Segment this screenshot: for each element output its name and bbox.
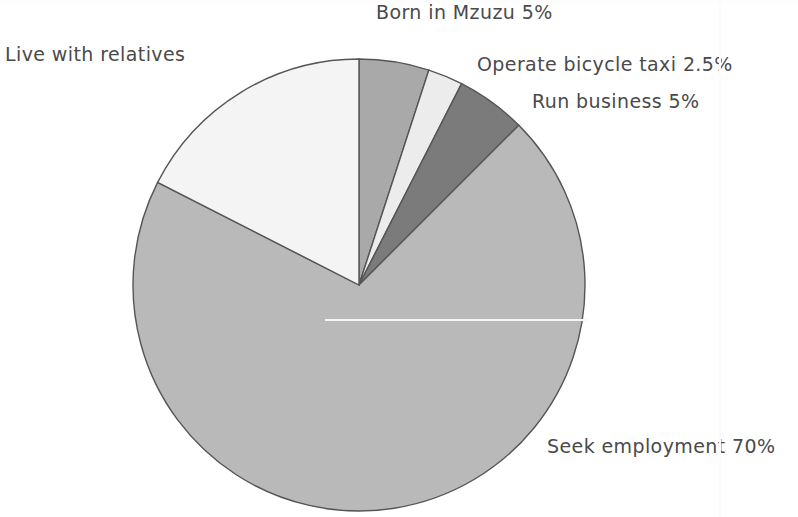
pie-slices-group xyxy=(133,59,585,511)
slice-label-operate-bicycle-taxi: Operate bicycle taxi 2.5% xyxy=(477,54,733,75)
slice-label-born-in-mzuzu: Born in Mzuzu 5% xyxy=(376,2,553,23)
pie-chart-page: Live with relatives Born in Mzuzu 5% Ope… xyxy=(0,0,798,517)
slice-label-live-with-relatives: Live with relatives xyxy=(5,44,185,65)
slice-label-seek-employment: Seek employment 70% xyxy=(547,436,775,457)
slice-label-run-business: Run business 5% xyxy=(532,91,699,112)
